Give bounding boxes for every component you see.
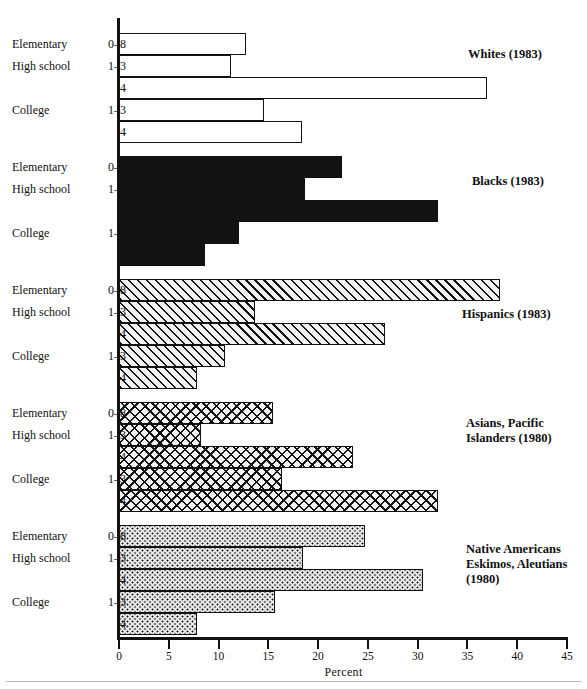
row-label-years: 4 [100,82,126,94]
row-label-years: 0–8 [100,38,126,50]
row-label-years: 1–3 [100,104,126,116]
x-tick-label-15: 15 [253,650,283,662]
row-label-level: High school [12,183,98,195]
x-tick-label-35: 35 [452,650,482,662]
row-label-level: College [12,227,98,239]
bar [119,490,438,512]
bar [119,244,205,266]
bar [119,367,197,389]
x-tick-label-20: 20 [303,650,333,662]
series-caption: Blacks (1983) [472,174,544,189]
series-caption: Hispanics (1983) [462,307,551,322]
bar [119,525,365,547]
row-label-years: 4 [100,574,126,586]
bar [119,301,255,323]
row-label-years: 1–3 [100,596,126,608]
row-label-years: 1–3 [100,227,126,239]
row-label-years: 1–3 [100,473,126,485]
x-tick-label-45: 45 [552,650,582,662]
row-label-years: 4 [100,249,126,261]
bar [119,591,275,613]
series-caption: Asians, PacificIslanders (1980) [466,416,552,446]
bar [119,424,201,446]
series-caption-line: Whites (1983) [468,47,542,62]
series-caption: Whites (1983) [468,47,542,62]
row-label-level: College [12,473,98,485]
bar [119,446,353,468]
bar [119,200,438,222]
bar [119,547,303,569]
bar [119,156,342,178]
row-label-years: 0–8 [100,530,126,542]
x-tick-label-0: 0 [104,650,134,662]
row-label-level: High school [12,429,98,441]
row-label-years: 4 [100,618,126,630]
row-label-level: High school [12,60,98,72]
row-label-years: 4 [100,451,126,463]
series-caption: Native AmericansEskimos, Aleutians(1980) [466,542,567,587]
x-axis-title-text: Percent [224,665,362,679]
row-label-level: Elementary [12,161,98,173]
series-caption-line: Hispanics (1983) [462,307,551,322]
series-caption-line: Islanders (1980) [466,431,552,446]
row-label-level: Elementary [12,530,98,542]
x-tick-label-30: 30 [403,650,433,662]
x-tick-30 [417,640,419,649]
row-label-level: High school [12,552,98,564]
bar [119,99,264,121]
x-tick-10 [218,640,220,649]
x-axis-line [117,637,568,640]
x-tick-0 [118,640,120,649]
bar [119,222,239,244]
bar [119,178,305,200]
row-label-years: 1–3 [100,306,126,318]
x-tick-label-10: 10 [204,650,234,662]
series-caption-line: (1980) [466,572,567,587]
row-label-years: 1–3 [100,350,126,362]
row-label-years: 4 [100,205,126,217]
plot-area: 051015202530354045 Elementary0–8High sch… [0,0,587,689]
row-label-years: 4 [100,495,126,507]
education-attainment-chart: 051015202530354045 Elementary0–8High sch… [0,0,587,689]
x-tick-label-40: 40 [502,650,532,662]
x-tick-15 [267,640,269,649]
x-tick-25 [367,640,369,649]
bar [119,279,500,301]
series-caption-line: Asians, Pacific [466,416,552,431]
row-label-level: Elementary [12,284,98,296]
series-caption-line: Native Americans [466,542,567,557]
series-caption-line: Blacks (1983) [472,174,544,189]
row-label-level: College [12,104,98,116]
series-caption-line: Eskimos, Aleutians [466,557,567,572]
bar [119,323,385,345]
row-label-years: 4 [100,372,126,384]
x-axis-title: Percent [0,665,587,680]
row-label-years: 0–8 [100,161,126,173]
bar [119,77,487,99]
row-label-years: 1–3 [100,183,126,195]
row-label-level: Elementary [12,407,98,419]
row-label-level: College [12,350,98,362]
bar [119,55,231,77]
bar [119,569,423,591]
bar [119,402,273,424]
row-label-level: College [12,596,98,608]
row-label-years: 0–8 [100,407,126,419]
row-label-years: 4 [100,328,126,340]
x-tick-45 [566,640,568,649]
x-tick-label-25: 25 [353,650,383,662]
bar [119,121,302,143]
bar [119,33,246,55]
bar [119,613,197,635]
row-label-level: High school [12,306,98,318]
row-label-years: 1–3 [100,429,126,441]
row-label-years: 4 [100,126,126,138]
x-tick-35 [466,640,468,649]
row-label-years: 0–8 [100,284,126,296]
x-tick-20 [317,640,319,649]
bar [119,345,225,367]
bottom-rule [6,681,581,682]
row-label-years: 1–3 [100,60,126,72]
row-label-years: 1–3 [100,552,126,564]
x-tick-5 [168,640,170,649]
